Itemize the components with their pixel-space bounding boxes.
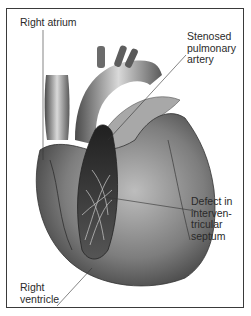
label-stenosed-pulmonary-artery: Stenosed pulmonary artery [187,31,236,66]
vena-cava [45,75,70,140]
label-septal-defect: Defect in interven- tricular septum [191,196,232,242]
label-right-ventricle: Right ventricle [20,282,59,305]
label-right-atrium: Right atrium [20,17,77,29]
right-ventricle-cavity [78,125,118,259]
